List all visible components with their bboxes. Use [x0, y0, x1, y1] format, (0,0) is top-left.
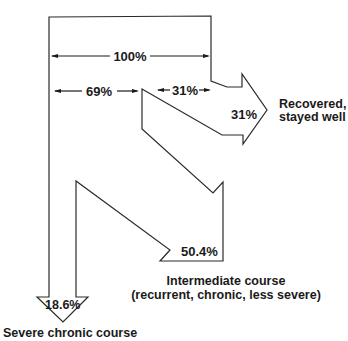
severe-label: Severe chronic course: [3, 326, 137, 340]
recovered-label-line1: Recovered,: [279, 97, 346, 111]
dimension-69-label: 69%: [86, 84, 112, 99]
intermediate-label-line2: (recurrent, chronic, less severe): [131, 288, 321, 302]
intermediate-value: 50.4%: [181, 244, 218, 259]
recovered-label-line2: stayed well: [279, 110, 346, 124]
recovered-value: 31%: [231, 107, 257, 122]
dimension-100-label: 100%: [113, 49, 147, 64]
dimension-31-label: 31%: [172, 83, 198, 98]
flow-diagram: 100% 69% 31% 31% Recovered, stayed well …: [0, 0, 348, 341]
severe-value: 18.6%: [45, 298, 80, 312]
intermediate-label-line1: Intermediate course: [167, 274, 286, 288]
